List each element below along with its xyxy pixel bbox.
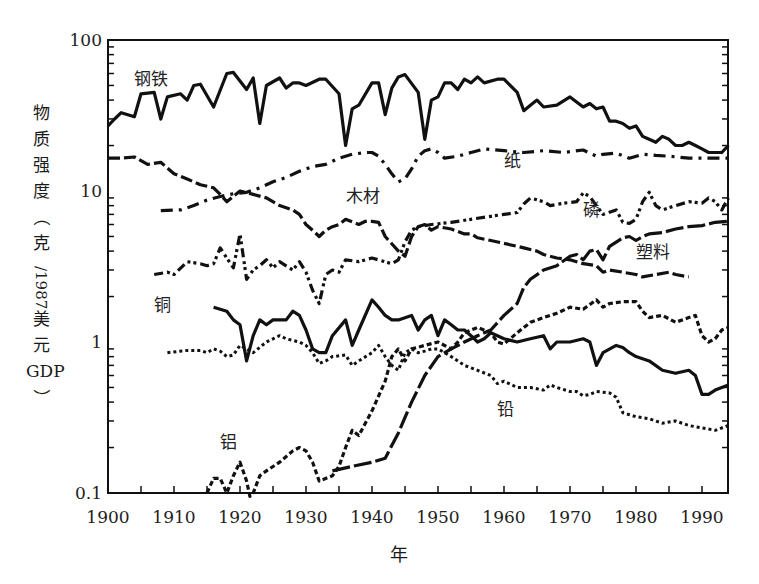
y-axis-label-part: 元 [26,332,56,358]
series-label: 铝 [220,432,237,452]
x-tick-label: 1970 [548,507,591,527]
x-tick-label: 1960 [482,507,525,527]
y-tick-label: 0.1 [75,483,102,503]
x-axis-label: 年 [390,540,408,566]
y-axis-label-part: （ [28,202,54,232]
x-tick-label: 1990 [680,507,723,527]
series-labels: 钢铁木材纸磷塑料铜铅铝 [134,69,670,451]
plot-frame [108,40,728,493]
y-axis-label-part: 美 [26,306,56,332]
y-tick-label: 1 [91,332,102,352]
x-tick-label: 1940 [350,507,393,527]
y-axis-label: 物质强度（克/1987美元GDP） [26,100,56,410]
axes: 0.11101001900191019201930194019501960197… [70,30,728,527]
x-tick-label: 1930 [284,507,327,527]
y-axis-label-part: 强 [26,152,56,178]
y-axis-label-part: 质 [26,126,56,152]
x-tick-label: 1900 [86,507,129,527]
y-tick-label: 100 [70,30,102,50]
series-line [108,72,728,152]
y-axis-label-part: 度 [26,178,56,204]
series-line [207,300,728,497]
series-label: 木材 [346,186,380,206]
y-axis-label-part: 物 [26,100,56,126]
series-label: 磷 [583,200,600,220]
series-label: 钢铁 [134,69,168,89]
series-label: 塑料 [636,242,670,262]
y-axis-label-part: ） [28,382,54,412]
y-axis-label-part: 克 [26,230,56,256]
series-line [214,300,729,395]
chart: 0.11101001900191019201930194019501960197… [0,0,759,584]
x-tick-label: 1980 [614,507,657,527]
series-layer [108,72,728,496]
y-axis-label-part: /1987 [16,266,66,296]
series-label: 铅 [497,399,514,419]
series-label: 纸 [504,151,521,171]
series-label: 铜 [154,295,171,315]
y-tick-label: 10 [80,181,102,201]
y-axis-label-part: GDP [26,358,56,384]
x-tick-label: 1920 [218,507,261,527]
x-tick-label: 1950 [416,507,459,527]
x-tick-label: 1910 [152,507,195,527]
